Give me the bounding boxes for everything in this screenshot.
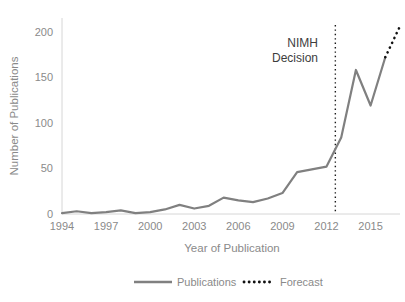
y-tick-label: 100 xyxy=(35,117,53,129)
nimh-decision-label-line2: Decision xyxy=(272,51,318,65)
x-tick-label: 2000 xyxy=(138,220,162,232)
y-tick-label: 200 xyxy=(35,26,53,38)
chart-legend: Publications Forecast xyxy=(134,276,323,288)
legend-label-publications: Publications xyxy=(177,276,237,288)
y-tick-labels: 050100150200 xyxy=(35,26,53,220)
y-axis-title: Number of Publications xyxy=(8,56,20,175)
x-tick-label: 1994 xyxy=(50,220,74,232)
x-tick-labels: 19941997200020032006200920122015 xyxy=(50,220,383,232)
legend-label-forecast: Forecast xyxy=(280,276,323,288)
chart-canvas: 050100150200 199419972000200320062009201… xyxy=(0,0,405,302)
x-tick-label: 2012 xyxy=(314,220,338,232)
y-tick-label: 0 xyxy=(47,208,53,220)
y-tick-label: 50 xyxy=(41,162,53,174)
series-line-forecast xyxy=(385,26,400,57)
x-tick-label: 2006 xyxy=(226,220,250,232)
x-tick-label: 2003 xyxy=(182,220,206,232)
y-tick-label: 150 xyxy=(35,71,53,83)
publications-line-chart: 050100150200 199419972000200320062009201… xyxy=(0,0,405,302)
nimh-decision-label-line1: NIMH xyxy=(287,36,318,50)
x-tick-label: 2009 xyxy=(270,220,294,232)
x-tick-label: 1997 xyxy=(94,220,118,232)
x-tick-label: 2015 xyxy=(358,220,382,232)
x-axis-title: Year of Publication xyxy=(184,242,279,254)
series-line-publications xyxy=(62,57,385,213)
